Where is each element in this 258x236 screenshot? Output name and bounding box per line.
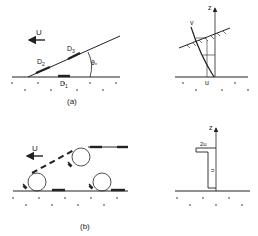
grain-circle [93, 173, 111, 191]
d3-label: D3 [67, 45, 75, 54]
two-u-label: 2u [200, 141, 207, 147]
panel-a-diagram: U D2 D3 D1 θ* (a) [11, 28, 120, 106]
impact-arrow-icon [68, 162, 72, 167]
z-label: z [209, 124, 213, 131]
flow-label: U [32, 144, 38, 153]
grain-circle [72, 148, 90, 166]
step-profile [196, 148, 216, 188]
panel-b-profile: z 2u u [175, 124, 250, 206]
grain-circle [28, 173, 46, 191]
profile-dots [176, 197, 243, 206]
d2-label: D2 [37, 58, 45, 67]
u-label: u [209, 169, 215, 172]
u-label: u [205, 79, 209, 86]
deposit-d2 [36, 67, 50, 73]
profile-dots [182, 82, 249, 91]
z-label: z [208, 4, 212, 11]
impact-arrow-icon [89, 184, 93, 189]
v-label: v [190, 19, 194, 26]
bed-dots [12, 197, 118, 206]
flow-label: U [36, 28, 42, 37]
panel-b-diagram: U (b) [12, 144, 128, 231]
panel-a-profile: z v u [175, 4, 249, 91]
slope-deposit [32, 150, 74, 173]
d1-label: D1 [60, 80, 68, 89]
impact-arrow-icon [23, 184, 27, 189]
caption-a: (a) [67, 97, 77, 106]
velocity-profile-curve [191, 27, 214, 77]
caption-b: (b) [80, 222, 90, 231]
